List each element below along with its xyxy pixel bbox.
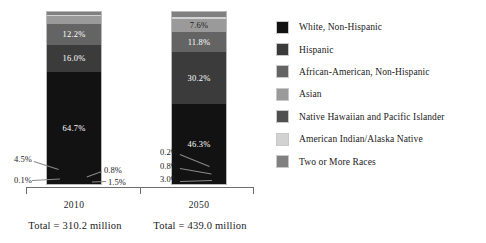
bar-segment[interactable]: 7.6% <box>172 19 226 32</box>
legend-item[interactable]: Hispanic <box>276 38 482 60</box>
legend-label: American Indian/Alaska Native <box>299 134 423 144</box>
stacked-bar-2050[interactable]: 46.3%30.2%11.8%7.6% <box>171 11 227 185</box>
callout-2010-nhpi: 0.1% <box>14 176 32 185</box>
legend-item[interactable]: American Indian/Alaska Native <box>276 128 482 150</box>
segment-value-label: 46.3% <box>188 140 211 149</box>
stacked-bar-2010[interactable]: 64.7%16.0%12.2% <box>46 11 102 185</box>
bar-segment[interactable]: 11.8% <box>172 32 226 52</box>
legend-label: Asian <box>299 89 322 99</box>
legend-label: Two or More Races <box>299 157 376 167</box>
callout-2050-nhpi: 0.2% <box>160 148 178 157</box>
legend-label: Hispanic <box>299 45 334 55</box>
legend-item[interactable]: African-American, Non-Hispanic <box>276 61 482 83</box>
legend-item[interactable]: Native Hawaiian and Pacific Islander <box>276 106 482 128</box>
axis-tick-right <box>253 188 254 194</box>
legend-swatch-icon <box>276 21 289 34</box>
axis-tick-center <box>140 188 141 194</box>
axis-tick-left <box>26 188 27 194</box>
segment-value-label: 30.2% <box>188 74 211 83</box>
legend-item[interactable]: White, Non-Hispanic <box>276 16 482 38</box>
segment-value-label: 16.0% <box>63 54 86 63</box>
plot-area: 64.7%16.0%12.2% 46.3%30.2%11.8%7.6% 2010… <box>0 0 262 243</box>
legend: White, Non-HispanicHispanicAfrican-Ameri… <box>276 16 482 173</box>
legend-swatch-icon <box>276 43 289 56</box>
x-label-2010: 2010 <box>14 200 134 210</box>
segment-value-label: 12.2% <box>63 30 86 39</box>
bar-segment[interactable]: 30.2% <box>172 52 226 104</box>
legend-label: African-American, Non-Hispanic <box>299 67 430 77</box>
legend-item[interactable]: Asian <box>276 83 482 105</box>
callout-2010-two: 1.5% <box>108 178 126 187</box>
x-label-2050: 2050 <box>139 200 259 210</box>
legend-swatch-icon <box>276 155 289 168</box>
segment-value-label: 7.6% <box>190 21 209 30</box>
stacked-bar-chart: 64.7%16.0%12.2% 46.3%30.2%11.8%7.6% 2010… <box>0 0 486 243</box>
legend-item[interactable]: Two or More Races <box>276 150 482 172</box>
legend-label: Native Hawaiian and Pacific Islander <box>299 112 445 122</box>
segment-value-label: 11.8% <box>188 38 211 47</box>
callout-2050-two: 3.0% <box>160 175 178 184</box>
callout-2050-aian: 0.8% <box>160 162 178 171</box>
bar-segment[interactable]: 16.0% <box>47 45 101 73</box>
legend-swatch-icon <box>276 88 289 101</box>
bar-segment[interactable] <box>47 16 101 24</box>
legend-swatch-icon <box>276 110 289 123</box>
legend-swatch-icon <box>276 133 289 146</box>
segment-value-label: 64.7% <box>63 124 86 133</box>
total-label-2050: Total = 439.0 million <box>125 220 275 231</box>
legend-swatch-icon <box>276 65 289 78</box>
callout-2010-aian: 0.8% <box>104 166 122 175</box>
bar-segment[interactable]: 12.2% <box>47 24 101 45</box>
callout-2010-asian: 4.5% <box>14 155 32 164</box>
legend-label: White, Non-Hispanic <box>299 22 382 32</box>
